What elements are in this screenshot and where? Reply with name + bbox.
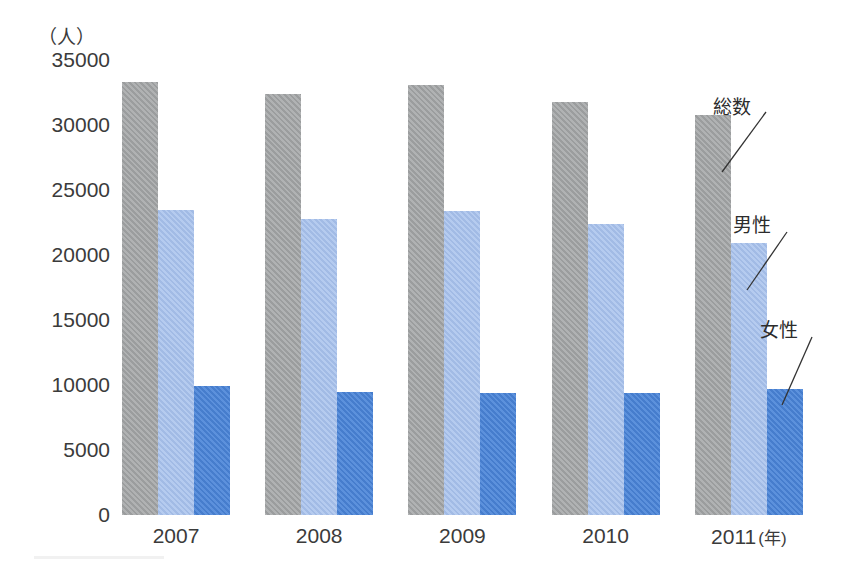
scan-artifact (34, 556, 164, 559)
x-axis-unit-label: (年) (758, 529, 786, 548)
y-axis-tick-label: 5000 (18, 438, 110, 462)
x-axis-tick-label-2010: 2010 (582, 524, 629, 548)
y-axis-tick-label: 20000 (18, 243, 110, 267)
annotation-label-total: 総数 (713, 92, 751, 119)
y-axis-tick-label: 10000 (18, 373, 110, 397)
x-axis-tick-label-2011: 2011(年) (711, 524, 787, 549)
bar-2007-total (122, 82, 158, 515)
bar-2009-total (408, 85, 444, 515)
bar-2007-female (194, 386, 230, 515)
annotation-label-female: 女性 (760, 315, 798, 342)
bar-2008-total (265, 94, 301, 515)
annotation-label-male: 男性 (733, 210, 771, 237)
bar-2008-female (337, 392, 373, 516)
x-axis-tick-value: 2010 (582, 524, 629, 547)
x-axis-tick-value: 2008 (296, 524, 343, 547)
x-axis-tick-label-2007: 2007 (153, 524, 200, 548)
x-axis-tick-value: 2009 (439, 524, 486, 547)
x-axis-tick-value: 2007 (153, 524, 200, 547)
bar-2010-female (624, 393, 660, 515)
y-axis-tick-labels: 35000300002500020000150001000050000 (18, 0, 110, 569)
bar-2011-female (767, 389, 803, 515)
bar-2010-total (552, 102, 588, 515)
bar-2010-male (588, 224, 624, 515)
x-axis-tick-label-2008: 2008 (296, 524, 343, 548)
x-axis-tick-label-2009: 2009 (439, 524, 486, 548)
bar-2009-female (480, 393, 516, 515)
bar-2008-male (301, 219, 337, 515)
y-axis-tick-label: 35000 (18, 48, 110, 72)
y-axis-tick-label: 25000 (18, 178, 110, 202)
y-axis-tick-label: 0 (18, 503, 110, 527)
plot-area (118, 60, 834, 515)
bar-2011-total (695, 115, 731, 515)
x-axis-tick-value: 2011 (711, 525, 756, 548)
y-axis-tick-label: 15000 (18, 308, 110, 332)
bar-2009-male (444, 211, 480, 515)
bar-2011-male (731, 243, 767, 515)
y-axis-tick-label: 30000 (18, 113, 110, 137)
bar-chart: （人） 35000300002500020000150001000050000 … (0, 0, 850, 569)
bar-2007-male (158, 210, 194, 516)
